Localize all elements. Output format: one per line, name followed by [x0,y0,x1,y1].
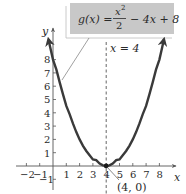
svg-text:7: 7 [44,68,50,79]
svg-text:6: 6 [44,81,50,92]
function-exponent: 2 [121,4,125,12]
axis-of-symmetry-label: x = 4 [110,42,139,55]
svg-text:6: 6 [130,169,136,180]
x-axis-label: x [174,171,181,184]
svg-text:7: 7 [143,169,149,180]
svg-text:1: 1 [44,148,50,159]
label-leader-line [62,38,89,80]
svg-text:3: 3 [44,121,50,132]
function-rest: − 4x + 8 [130,13,179,26]
svg-text:−1: −1 [39,174,54,185]
svg-text:3: 3 [90,169,96,180]
parabola-left-branch [49,40,107,167]
svg-text:8: 8 [44,54,50,65]
parabola-chart: g(x) = x 2 2 − 4x + 8 x y −2 −1 1 2 3 4 … [0,0,186,194]
function-label-box: g(x) = x 2 2 − 4x + 8 [66,3,179,38]
svg-text:5: 5 [44,94,50,105]
svg-text:2: 2 [77,169,83,180]
svg-text:4: 4 [44,108,50,119]
parabola-right-branch [106,40,164,167]
function-lhs: g(x) = [78,13,113,26]
y-axis-label: y [41,25,49,38]
vertex-label: (4, 0) [117,181,147,194]
svg-text:1: 1 [64,169,70,180]
function-denominator: 2 [116,20,122,31]
svg-text:8: 8 [157,169,163,180]
y-tick-labels: −1 1 2 3 4 5 6 7 8 [39,54,54,185]
svg-text:2: 2 [44,134,50,145]
